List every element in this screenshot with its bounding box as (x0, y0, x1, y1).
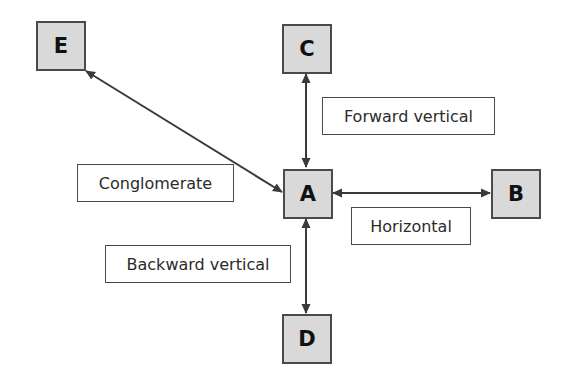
label-horizontal: Horizontal (351, 207, 471, 245)
label-forward-vertical: Forward vertical (322, 97, 495, 135)
node-d: D (282, 314, 332, 364)
label-backward-vertical: Backward vertical (105, 245, 291, 283)
node-e: E (36, 21, 86, 71)
node-a: A (283, 169, 333, 219)
node-b: B (491, 169, 541, 219)
label-conglomerate: Conglomerate (77, 164, 234, 202)
integration-diagram: E C A B D Forward vertical Conglomerate … (0, 0, 565, 390)
node-c: C (282, 24, 332, 74)
